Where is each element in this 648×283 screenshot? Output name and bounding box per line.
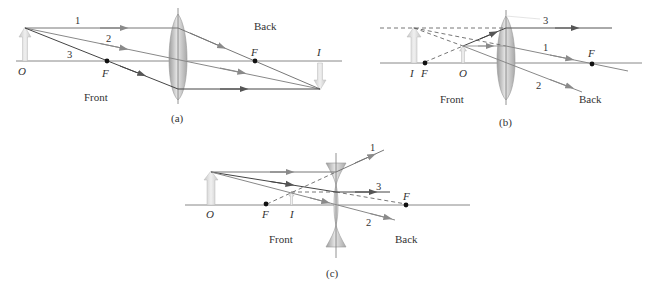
focal-back-label: F [587,47,595,59]
ray-2-label: 2 [366,217,371,228]
figure-b: 3 1 2 I F O F Front Back (b) [380,10,642,129]
figure-a: 1 2 3 O F F I Back Front (a) [16,8,342,125]
focal-front-label: F [101,67,109,79]
ray-3-label: 3 [67,49,72,60]
ray-1 [211,150,384,172]
converging-lens [169,8,187,104]
ray-2 [463,46,582,92]
ray-1-label: 1 [370,142,375,153]
caption-c: (c) [326,267,339,280]
back-label: Back [254,20,277,32]
focal-back-label: F [402,190,410,202]
back-label: Back [395,233,418,245]
converging-lens [497,10,515,105]
ray-2 [211,172,395,220]
ray-3-label: 3 [543,15,548,26]
image-arrow [407,27,421,63]
ray-1-label: 1 [75,15,80,26]
focal-back-label: F [250,46,258,58]
ray-3 [463,16,612,46]
ray-1-label: 1 [543,42,548,53]
ray-diagrams-canvas: 1 2 3 O F F I Back Front (a) [0,0,648,283]
caption-b: (b) [499,116,512,129]
focal-point-back [253,59,258,64]
object-arrow [460,46,467,63]
object-arrow [204,171,218,205]
ray-2-label: 2 [536,80,541,91]
focal-point-back [590,62,595,67]
front-label: Front [84,91,108,103]
ray-3-label: 3 [376,181,381,192]
object-label: O [18,65,26,77]
image-arrow [314,63,326,90]
ray-3 [211,172,390,192]
front-label: Front [269,233,293,245]
focal-point-back [404,203,409,208]
figure-c: 1 3 2 O F I F Front Back (c) [185,142,470,280]
front-label: Front [440,93,464,105]
focal-point-front [105,59,110,64]
object-label: O [459,67,467,79]
caption-a: (a) [171,112,184,125]
object-arrow [19,27,31,61]
focal-front-label: F [420,67,428,79]
image-label: I [409,67,415,79]
virtual-ray-extensions [380,28,506,62]
focal-front-label: F [261,208,269,220]
ray-2-label: 2 [106,33,111,44]
back-label: Back [579,93,602,105]
image-label: I [289,208,295,220]
focal-point-front [423,61,428,66]
object-label: O [206,208,214,220]
focal-point-front [264,202,269,207]
image-label: I [316,46,322,58]
